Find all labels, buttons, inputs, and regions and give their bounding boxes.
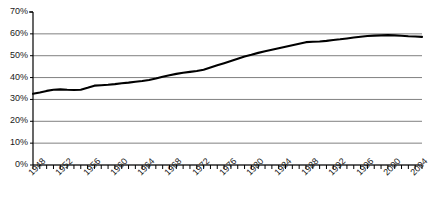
y-axis-tick-label: 50% [0, 51, 28, 60]
gridlines [33, 34, 422, 165]
y-axis-tick-label: 60% [0, 29, 28, 38]
plot-svg [33, 12, 422, 165]
y-axis-tick-label: 10% [0, 138, 28, 147]
y-axis-tick-label: 40% [0, 73, 28, 82]
y-axis-tick-label: 30% [0, 94, 28, 103]
y-axis-tick-label: 20% [0, 116, 28, 125]
data-series-line [33, 35, 422, 94]
plot-area [33, 12, 422, 165]
line-chart: 70%60%50%40%30%20%10%0% 1948195219561960… [0, 0, 435, 209]
y-axis-tick-label: 0% [0, 160, 28, 169]
y-axis-tick-label: 70% [0, 7, 28, 16]
